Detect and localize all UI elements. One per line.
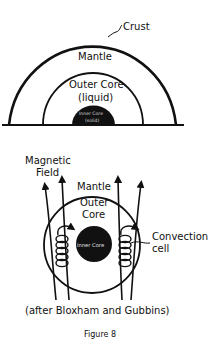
outer-core-label-line2: Core	[82, 209, 105, 220]
outer-core-label: Outer Core	[69, 79, 124, 90]
earth-layers-cross-section: Crust Mantle Outer Core (liquid) Inner C…	[2, 21, 184, 125]
convection-cell-label: Convection	[152, 231, 208, 242]
geodynamo-diagram: Inner Core Magnetic Field Mantle	[25, 155, 208, 316]
figure-8-diagram: Crust Mantle Outer Core (liquid) Inner C…	[0, 0, 211, 346]
crust-label: Crust	[123, 21, 150, 32]
convection-cell-label-line2: cell	[152, 243, 169, 254]
inner-core-label: Inner Core	[79, 111, 103, 116]
crust-leader-line	[108, 25, 122, 37]
inner-core-state-label: (solid)	[85, 118, 99, 123]
magnetic-field-label: Magnetic	[25, 155, 71, 166]
outer-core-label: Outer	[80, 197, 109, 208]
figure-caption: Figure 8	[84, 330, 116, 339]
outer-core-state-label: (liquid)	[78, 92, 113, 103]
magnetic-field-label-line2: Field	[36, 167, 59, 178]
magnetic-field-line-left-outer	[45, 186, 56, 300]
mantle-label: Mantle	[77, 181, 111, 192]
source-credit: (after Bloxham and Gubbins)	[25, 305, 170, 316]
inner-core-label: Inner Core	[77, 242, 104, 248]
mantle-label: Mantle	[78, 51, 112, 62]
